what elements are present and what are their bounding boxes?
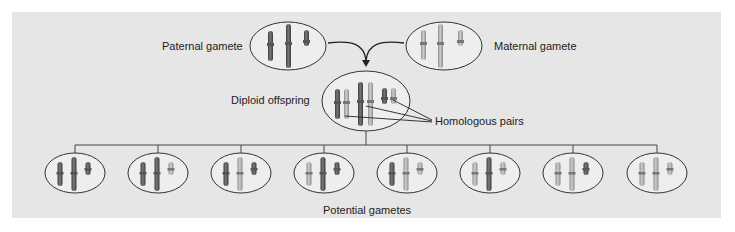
potential-gamete-cell (377, 153, 437, 193)
maternal-gamete-label: Maternal gamete (494, 40, 577, 52)
merge-arrow-right (366, 42, 404, 60)
potential-gamete-cell (543, 153, 603, 193)
arrow-head-icon (362, 60, 370, 67)
potential-gamete-cell (128, 153, 188, 193)
diploid-offspring-label: Diploid offspring (231, 94, 310, 106)
paternal-gamete-cell (250, 22, 326, 70)
potential-gamete-cell (460, 153, 520, 193)
potential-gamete-cell (211, 153, 271, 193)
maternal-gamete-cell (406, 22, 482, 70)
potential-gametes-label: Potential gametes (323, 204, 411, 216)
diploid-offspring-cell (322, 71, 410, 131)
potential-gamete-cell (45, 153, 105, 193)
merge-arrow-left (328, 42, 366, 60)
potential-gametes-row (45, 153, 687, 193)
potential-gamete-cell (294, 153, 354, 193)
paternal-gamete-label: Paternal gamete (162, 40, 243, 52)
potential-gamete-cell (627, 153, 687, 193)
gamete-tree-lines (75, 131, 657, 154)
meiosis-diagram (0, 0, 735, 232)
homologous-pairs-label: Homologous pairs (435, 115, 524, 127)
